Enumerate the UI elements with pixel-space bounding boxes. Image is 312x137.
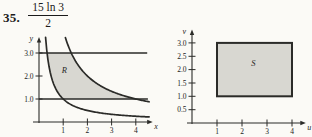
y-tick-label: 1.0 <box>24 95 34 104</box>
v-tick-label: 3.0 <box>177 39 187 48</box>
region-label-R: R <box>61 65 68 75</box>
y-axis-label: y <box>28 34 33 43</box>
problem-answer: 35. 15 ln 3 2 <box>3 1 68 30</box>
u-tick-label: 3 <box>265 127 269 136</box>
x-axis-arrow-icon <box>147 120 153 124</box>
x-tick-label: 1 <box>61 126 65 135</box>
y-tick-label: 2.0 <box>24 72 34 81</box>
problem-number: 35. <box>3 5 20 26</box>
xy-plane-graph: 12341.02.03.0xyR <box>24 34 158 135</box>
v-axis-arrow-icon <box>190 30 194 36</box>
u-axis-arrow-icon <box>300 121 306 125</box>
v-axis-label: v <box>182 27 186 36</box>
v-tick-label: 1.5 <box>177 79 187 88</box>
u-axis-label: u <box>307 123 311 132</box>
shaded-region-R <box>47 53 136 99</box>
v-tick-label: 0.5 <box>177 105 187 114</box>
uv-plane-graph: 12340.51.01.52.02.53.0uvS <box>177 27 311 137</box>
shaded-region-S <box>217 43 292 96</box>
y-tick-label: 3.0 <box>24 49 34 58</box>
x-tick-label: 3 <box>110 126 114 135</box>
textbook-answer-figure: 35. 15 ln 3 2 12341.02.03.0xyR12340.51.0… <box>0 0 312 137</box>
v-tick-label: 2.5 <box>177 52 187 61</box>
fraction-denominator: 2 <box>45 16 51 30</box>
x-tick-label: 2 <box>86 126 90 135</box>
fraction-numerator: 15 ln 3 <box>28 1 68 16</box>
y-axis-arrow-icon <box>37 37 41 43</box>
u-tick-label: 4 <box>290 127 294 136</box>
v-tick-label: 1.0 <box>177 92 187 101</box>
v-tick-label: 2.0 <box>177 65 187 74</box>
x-axis-label: x <box>153 122 158 131</box>
answer-fraction: 15 ln 3 2 <box>28 1 68 30</box>
u-tick-label: 1 <box>215 127 219 136</box>
x-tick-label: 4 <box>134 126 138 135</box>
u-tick-label: 2 <box>240 127 244 136</box>
region-label-S: S <box>251 58 256 68</box>
